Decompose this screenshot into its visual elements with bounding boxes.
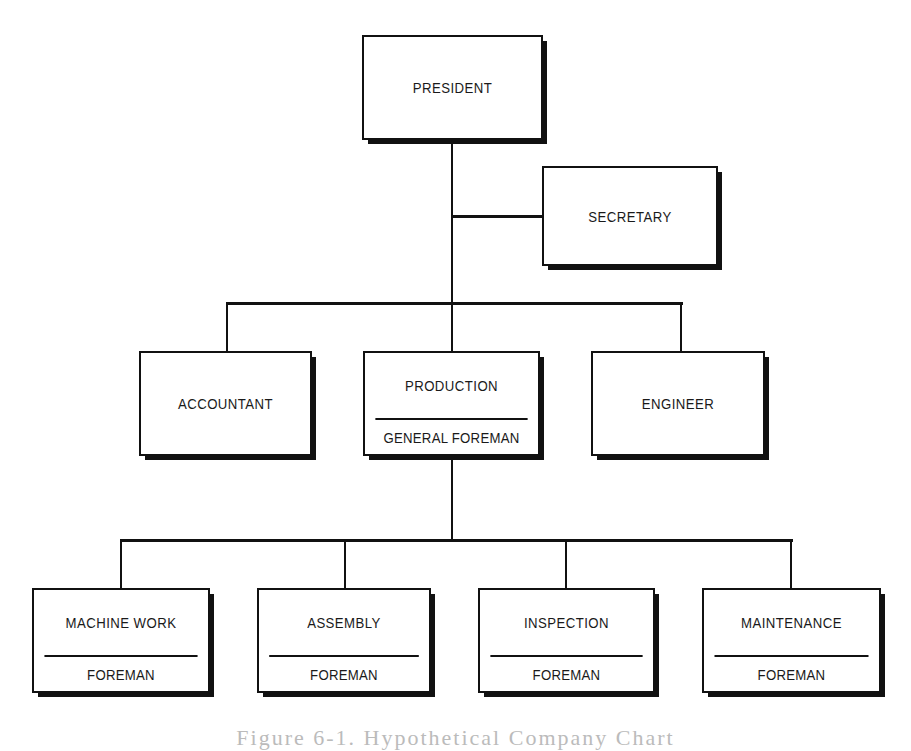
node-title: ASSEMBLY	[269, 590, 419, 655]
connector-production-trunk	[451, 456, 453, 541]
node-engineer: ENGINEER	[591, 351, 765, 456]
node-subtitle: FOREMAN	[715, 655, 869, 691]
node-title: SECRETARY	[554, 168, 705, 264]
node-title: PRESIDENT	[375, 37, 531, 138]
node-production: PRODUCTION GENERAL FOREMAN	[363, 351, 540, 456]
connector-maintenance	[790, 539, 792, 589]
node-subtitle: FOREMAN	[490, 655, 642, 691]
node-accountant: ACCOUNTANT	[139, 351, 312, 456]
node-subtitle: FOREMAN	[44, 655, 197, 691]
node-subtitle: GENERAL FOREMAN	[375, 418, 527, 454]
node-title: ACCOUNTANT	[151, 353, 300, 454]
connector-accountant	[226, 302, 228, 352]
node-title: PRODUCTION	[375, 353, 527, 418]
connector-machine-work	[120, 539, 122, 589]
node-president: PRESIDENT	[362, 35, 543, 140]
node-title: ENGINEER	[603, 353, 753, 454]
node-maintenance: MAINTENANCE FOREMAN	[702, 588, 881, 693]
connector-foreman-bar	[120, 539, 793, 542]
node-subtitle: FOREMAN	[269, 655, 419, 691]
node-title: MAINTENANCE	[715, 590, 869, 655]
node-secretary: SECRETARY	[542, 166, 718, 266]
connector-engineer	[680, 302, 682, 352]
connector-inspection	[565, 539, 567, 589]
node-inspection: INSPECTION FOREMAN	[478, 588, 655, 693]
figure-caption: Figure 6-1. Hypothetical Company Chart	[0, 725, 911, 751]
node-title: INSPECTION	[490, 590, 642, 655]
node-title: MACHINE WORK	[44, 590, 197, 655]
node-machine-work: MACHINE WORK FOREMAN	[32, 588, 210, 693]
connector-secretary	[452, 215, 543, 218]
node-assembly: ASSEMBLY FOREMAN	[257, 588, 431, 693]
connector-president-trunk	[451, 140, 453, 352]
connector-assembly	[344, 539, 346, 589]
connector-staff-bar	[226, 302, 683, 305]
